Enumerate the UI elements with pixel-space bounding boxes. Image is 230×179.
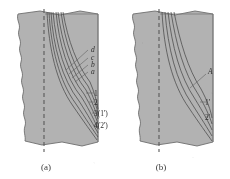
caption-b: (b) [156,162,167,172]
label-a-4-2prime: 4(2') [94,121,108,130]
label-a-3-1prime: 3(1') [94,109,108,118]
label-b-1prime: 1' [205,98,211,107]
caption-a: (a) [41,162,51,172]
specimen-body-a [18,11,98,146]
panel-b: A 1' 2' (b) [133,9,213,172]
label-a-a: a [91,67,95,76]
figure-canvas: d c b a 1 2 3(1') 4(2') (a) [0,0,230,179]
label-a-2: 2 [94,98,98,107]
label-b-2prime: 2' [205,113,211,122]
label-a-1: 1 [94,89,98,98]
panel-a: d c b a 1 2 3(1') 4(2') (a) [18,9,109,172]
label-b-A: A [207,67,213,76]
